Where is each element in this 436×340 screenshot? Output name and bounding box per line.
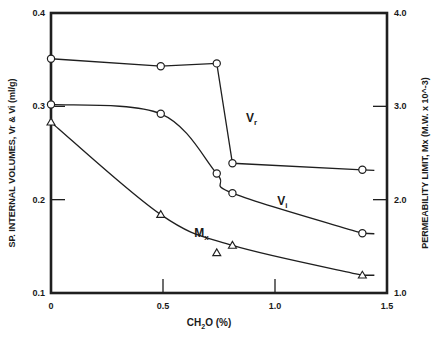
circle-marker [229,190,236,197]
series-label-mx: Mx [194,226,209,242]
x-tick-label: 0.5 [157,301,170,311]
circle-marker [47,101,54,108]
y2-tick-label: 1.0 [394,288,407,298]
plot-frame [51,13,387,293]
curve-vr [51,59,374,171]
plot-axes [51,13,387,293]
y-tick-label: 0.3 [32,101,45,111]
data-curves [51,59,374,276]
circle-marker [157,110,164,117]
x-axis-label: CH2O (%) [187,317,231,330]
curve-vi [51,104,374,233]
triangle-marker [47,118,55,125]
axis-ticks: 00.51.01.50.10.20.30.41.02.03.04.0 [32,8,406,311]
y-tick-label: 0.4 [32,8,45,18]
series-label-vr: Vr [246,111,257,127]
y2-tick-label: 2.0 [394,195,407,205]
circle-marker [213,170,220,177]
y2-axis-label: PERMEABILITY LIMIT, Mx (M.W. x 10^-3) [420,77,430,249]
chart-container: 00.51.01.50.10.20.30.41.02.03.04.0 VrViM… [0,0,436,340]
curve-mx [51,122,374,275]
y2-tick-label: 3.0 [394,101,407,111]
chart-svg: 00.51.01.50.10.20.30.41.02.03.04.0 VrViM… [0,0,436,340]
circle-marker [229,160,236,167]
circle-marker [359,230,366,237]
y-axis-label: SP. INTERNAL VOLUMES, Vr & Vi (ml/g) [7,78,17,247]
x-tick-label: 1.0 [269,301,282,311]
x-tick-label: 0 [48,301,53,311]
y-tick-label: 0.1 [32,288,45,298]
circle-marker [213,60,220,67]
circle-marker [157,63,164,70]
circle-marker [47,55,54,62]
series-label-vi: Vi [277,194,287,210]
circle-marker [359,166,366,173]
y2-tick-label: 4.0 [394,8,407,18]
data-markers [47,55,366,278]
y-tick-label: 0.2 [32,195,45,205]
triangle-marker [213,249,221,256]
x-tick-label: 1.5 [381,301,394,311]
triangle-marker [157,211,165,218]
